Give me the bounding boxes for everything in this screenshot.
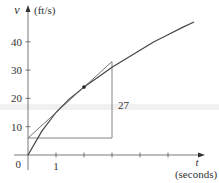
x-axis-units: (seconds) [175,168,217,181]
y-tick-label: 20 [11,92,23,104]
y-axis-units: (ft/s) [34,4,56,17]
curves [28,22,194,155]
y-tick-label: 10 [11,121,23,133]
y-axis-arrow-icon [26,5,31,12]
x-axis-label: t [195,156,199,168]
x-tick-label: 1 [53,160,59,172]
labels: 1020304010v(ft/s)t(seconds)27 [11,3,217,181]
y-axis-label: v [14,3,20,17]
velocity-curve [28,22,194,155]
x-axis-arrow-icon [198,153,205,158]
axes [14,5,205,170]
y-tick-label: 30 [11,64,23,76]
tangent-line [28,62,112,138]
rise-label: 27 [118,99,130,111]
y-tick-label: 40 [11,36,23,48]
velocity-chart: 1020304010v(ft/s)t(seconds)27 [0,0,219,183]
tangent-point-marker [82,85,86,89]
origin-label: 0 [16,158,22,170]
